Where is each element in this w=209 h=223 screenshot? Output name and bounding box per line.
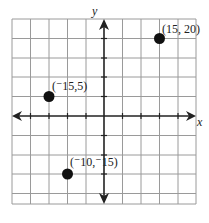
x-axis-label: x: [196, 115, 203, 129]
point-neg10-neg15: [62, 169, 73, 180]
point-label: (15, 20): [162, 22, 200, 36]
y-axis-label: y: [91, 4, 98, 18]
coordinate-plane: y x (15, 20) (⁻15,5) (⁻10,⁻15): [0, 0, 209, 223]
point-label: (⁻10,⁻15): [70, 155, 118, 169]
point-label: (⁻15,5): [52, 79, 87, 93]
